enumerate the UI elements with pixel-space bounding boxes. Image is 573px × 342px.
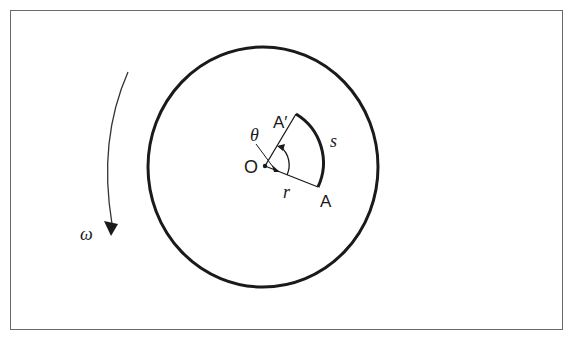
label-angular-velocity-omega: ω [80,225,93,243]
label-center-O: O [244,158,258,176]
label-point-A-prime: A′ [273,114,288,131]
theta-pointer-arrowhead-icon [272,165,280,172]
center-point-O [263,164,267,168]
label-point-A: A [320,193,331,210]
disc-circle [148,47,378,287]
label-arc-s: s [330,132,337,150]
arc-s [296,114,323,187]
radius-line-OA [265,166,318,187]
label-angle-theta: θ [250,126,259,144]
omega-rotation-arrow [108,72,128,224]
omega-arrowhead-icon [104,221,118,236]
theta-angle-arc [281,147,289,175]
diagram-canvas [0,0,573,342]
label-radius-r: r [283,183,290,201]
